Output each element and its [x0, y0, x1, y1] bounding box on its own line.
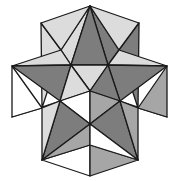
- polyhedron-drawing: [0, 0, 172, 181]
- stellated-dodecahedron-figure: [0, 0, 172, 181]
